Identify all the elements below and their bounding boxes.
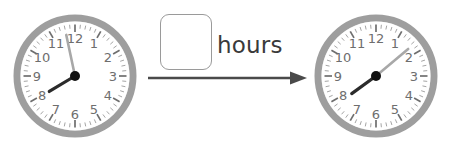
clock-numeral-1: 1: [90, 36, 98, 51]
clock-numeral-5: 5: [391, 102, 399, 117]
clock-numeral-8: 8: [38, 88, 46, 103]
clock-numeral-3: 3: [410, 69, 418, 84]
hours-unit-label: hours: [217, 32, 283, 58]
clock-numeral-6: 6: [372, 107, 380, 122]
clock-numeral-8: 8: [339, 88, 347, 103]
elapsed-time-worksheet: 121234567891011 hours 121234567891011: [0, 0, 449, 152]
clock-numeral-4: 4: [104, 88, 112, 103]
clock-numeral-9: 9: [334, 69, 342, 84]
clock-numeral-11: 11: [48, 36, 65, 51]
clock-numeral-6: 6: [71, 107, 79, 122]
clock-numeral-4: 4: [405, 88, 413, 103]
end-clock-face: 121234567891011: [312, 12, 440, 140]
right-arrow-icon: [146, 66, 310, 90]
clock-numeral-3: 3: [109, 69, 117, 84]
clock-numeral-12: 12: [368, 31, 385, 46]
clock-numeral-10: 10: [34, 50, 51, 65]
end-clock: 121234567891011: [312, 12, 440, 140]
clock-numeral-7: 7: [52, 102, 60, 117]
clock-numeral-5: 5: [90, 102, 98, 117]
clock-hub: [70, 71, 80, 81]
clock-numeral-2: 2: [104, 50, 112, 65]
hours-answer-input[interactable]: [160, 14, 212, 70]
clock-numeral-11: 11: [349, 36, 366, 51]
start-clock-face: 121234567891011: [11, 12, 139, 140]
clock-numeral-9: 9: [33, 69, 41, 84]
clock-hub: [371, 71, 381, 81]
start-clock: 121234567891011: [11, 12, 139, 140]
clock-numeral-1: 1: [391, 36, 399, 51]
clock-numeral-7: 7: [353, 102, 361, 117]
clock-numeral-10: 10: [335, 50, 352, 65]
